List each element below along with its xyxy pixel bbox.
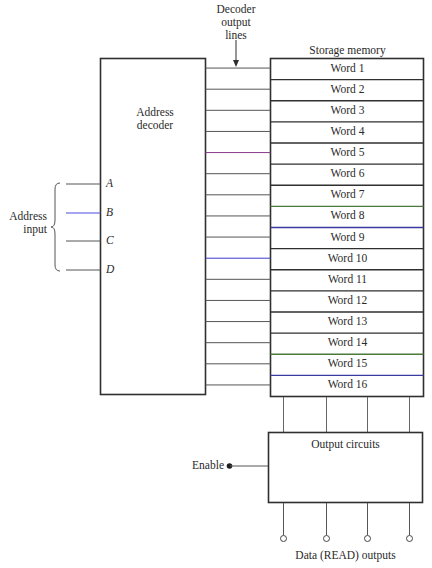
memory-word-row: Word 2 bbox=[271, 83, 424, 104]
address-input-label: Address input bbox=[0, 210, 47, 236]
memory-word-row: Word 4 bbox=[271, 125, 424, 146]
decoder-output-lines bbox=[206, 68, 271, 385]
memory-to-output-lines bbox=[284, 397, 410, 432]
memory-word-row: Word 10 bbox=[271, 252, 424, 273]
data-output-terminal-icon[interactable] bbox=[324, 536, 330, 542]
memory-word-row: Word 1 bbox=[271, 62, 424, 83]
memory-word-row: Word 8 bbox=[271, 209, 424, 230]
decoder-output-label-line3: lines bbox=[206, 29, 266, 42]
memory-word-row: Word 16 bbox=[271, 378, 424, 399]
memory-word-row: Word 15 bbox=[271, 357, 424, 378]
memory-word-row: Word 3 bbox=[271, 104, 424, 125]
address-input-lines bbox=[66, 184, 101, 270]
memory-word-row: Word 11 bbox=[271, 273, 424, 294]
arrow-head-icon bbox=[233, 60, 239, 67]
data-output-terminal-icon[interactable] bbox=[281, 536, 287, 542]
address-input-label-line2: input bbox=[0, 223, 47, 236]
address-brace-icon bbox=[51, 183, 60, 271]
address-line-b-label: B bbox=[106, 206, 113, 219]
address-input-label-line1: Address bbox=[0, 210, 47, 223]
enable-label: Enable bbox=[170, 459, 224, 472]
address-line-c-label: C bbox=[106, 234, 114, 247]
memory-word-row: Word 14 bbox=[271, 336, 424, 357]
decoder-output-label-line1: Decoder bbox=[206, 3, 266, 16]
data-outputs-label: Data (READ) outputs bbox=[269, 549, 422, 562]
decoder-output-label: Decoder output lines bbox=[206, 3, 266, 42]
decoder-output-label-line2: output bbox=[206, 16, 266, 29]
storage-memory-title: Storage memory bbox=[271, 44, 424, 57]
memory-word-row: Word 9 bbox=[271, 231, 424, 252]
address-decoder-label-line1: Address bbox=[120, 106, 190, 119]
memory-word-row: Word 13 bbox=[271, 315, 424, 336]
data-output-lines bbox=[281, 503, 413, 542]
data-output-terminal-icon[interactable] bbox=[365, 536, 371, 542]
output-circuits-label: Output circuits bbox=[269, 438, 422, 451]
data-output-terminal-icon[interactable] bbox=[407, 536, 413, 542]
address-decoder-label-line2: decoder bbox=[120, 119, 190, 132]
memory-word-row: Word 6 bbox=[271, 167, 424, 188]
memory-word-row: Word 5 bbox=[271, 146, 424, 167]
memory-word-row: Word 7 bbox=[271, 188, 424, 209]
memory-word-row: Word 12 bbox=[271, 294, 424, 315]
address-line-d-label: D bbox=[106, 263, 114, 276]
address-decoder-label: Address decoder bbox=[120, 106, 190, 132]
address-line-a-label: A bbox=[106, 177, 113, 190]
